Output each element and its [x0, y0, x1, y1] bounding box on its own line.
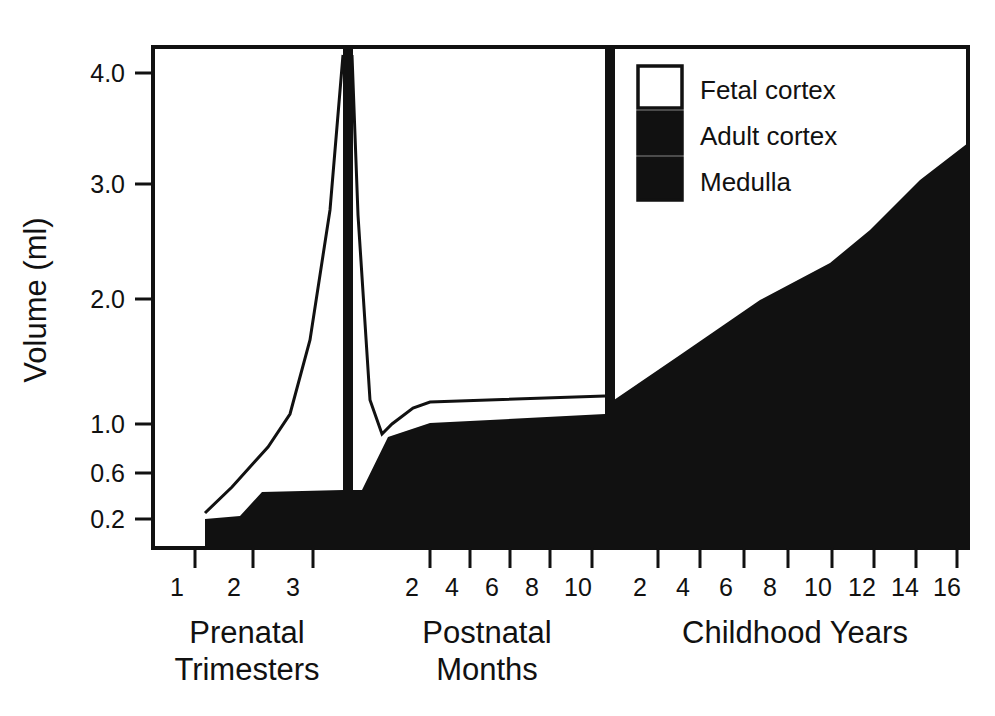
legend-label-fetal-cortex: Fetal cortex — [700, 75, 836, 105]
x-tick-label-postnatal-10: 10 — [564, 573, 592, 601]
section-label-postnatal-line1: Postnatal — [422, 615, 551, 650]
divider-postnatal-childhood — [605, 47, 615, 548]
y-axis-tick-labels: 4.0 3.0 2.0 1.0 0.6 0.2 — [90, 59, 125, 533]
y-axis-title: Volume (ml) — [18, 217, 53, 382]
x-tick-label-childhood-6: 6 — [719, 573, 733, 601]
chart-figure: 4.0 3.0 2.0 1.0 0.6 0.2 Volume (ml) — [0, 0, 995, 716]
y-tick-label-4-0: 4.0 — [90, 59, 125, 87]
adrenal-volume-chart: 4.0 3.0 2.0 1.0 0.6 0.2 Volume (ml) — [0, 0, 995, 716]
x-tick-label-prenatal-3: 3 — [286, 573, 300, 601]
legend-label-medulla: Medulla — [700, 167, 792, 197]
x-tick-label-childhood-10: 10 — [804, 573, 832, 601]
x-axis-ticks — [195, 548, 957, 568]
y-tick-label-0-2: 0.2 — [90, 505, 125, 533]
x-tick-label-postnatal-6: 6 — [485, 573, 499, 601]
legend-swatch-medulla — [638, 158, 682, 200]
section-label-prenatal-line1: Prenatal — [189, 615, 304, 650]
x-tick-label-childhood-12: 12 — [848, 573, 876, 601]
legend-swatch-adult-cortex — [638, 112, 682, 154]
x-tick-label-childhood-8: 8 — [763, 573, 777, 601]
x-tick-label-postnatal-8: 8 — [525, 573, 539, 601]
x-tick-label-childhood-4: 4 — [676, 573, 690, 601]
y-tick-label-1-0: 1.0 — [90, 410, 125, 438]
x-tick-label-postnatal-2: 2 — [405, 573, 419, 601]
y-tick-label-3-0: 3.0 — [90, 170, 125, 198]
legend-label-adult-cortex: Adult cortex — [700, 121, 837, 151]
y-tick-label-0-6: 0.6 — [90, 459, 125, 487]
legend-swatch-fetal-cortex — [638, 66, 682, 108]
x-tick-label-childhood-2: 2 — [633, 573, 647, 601]
x-tick-label-postnatal-4: 4 — [445, 573, 459, 601]
x-axis-tick-labels: 1 2 3 2 4 6 8 10 2 4 6 8 10 12 14 16 — [170, 573, 961, 601]
divider-prenatal-postnatal — [343, 47, 353, 548]
x-tick-label-prenatal-2: 2 — [227, 573, 241, 601]
y-axis-ticks — [135, 73, 153, 519]
section-label-childhood-line1: Childhood Years — [682, 615, 908, 650]
y-tick-label-2-0: 2.0 — [90, 285, 125, 313]
section-labels: Prenatal Trimesters Postnatal Months Chi… — [174, 615, 908, 687]
x-tick-label-prenatal-1: 1 — [170, 573, 184, 601]
x-tick-label-childhood-14: 14 — [891, 573, 919, 601]
section-label-postnatal-line2: Months — [436, 652, 538, 687]
section-label-prenatal-line2: Trimesters — [174, 652, 319, 687]
x-tick-label-childhood-16: 16 — [933, 573, 961, 601]
